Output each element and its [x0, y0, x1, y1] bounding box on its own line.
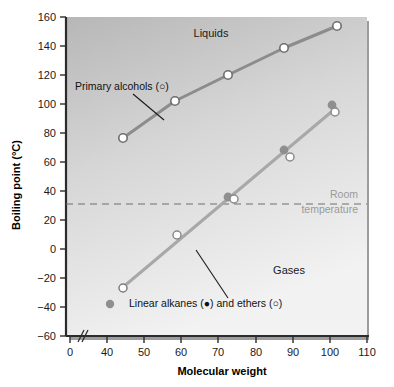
- liquids-region-label: Liquids: [194, 27, 229, 39]
- y-axis-title: Boiling point (°C): [10, 140, 22, 230]
- y-tick-label: −60: [37, 330, 56, 342]
- data-point-alcohol: [333, 22, 341, 30]
- x-axis-title: Molecular weight: [177, 365, 267, 377]
- room-temperature-label-line1: Room: [330, 188, 358, 200]
- room-temperature-label-line2: temperature: [301, 203, 358, 215]
- y-tick-label: 80: [44, 127, 56, 139]
- data-point-ether: [230, 195, 238, 203]
- plot-background: [66, 17, 367, 336]
- y-tick-label: 120: [38, 69, 56, 81]
- y-tick-label: 100: [38, 98, 56, 110]
- x-tick-label: 50: [138, 346, 150, 358]
- alkanes-ethers-callout-label: Linear alkanes (●) and ethers (○): [129, 297, 282, 309]
- x-tick-label: 70: [212, 346, 224, 358]
- x-tick-label: 0: [67, 346, 73, 358]
- data-point-alcohol: [280, 44, 288, 52]
- boiling-point-chart: 160 140 120 100 80 60 40 20 0 −20 −40 −6…: [0, 0, 394, 387]
- y-tick-label: 0: [50, 243, 56, 255]
- data-point-ether: [286, 153, 294, 161]
- gases-region-label: Gases: [273, 264, 305, 276]
- data-point-ether: [331, 108, 339, 116]
- alcohols-callout-label: Primary alcohols (○): [75, 80, 169, 92]
- data-point-alcohol: [224, 71, 232, 79]
- data-point-alcohol: [119, 134, 127, 142]
- data-point-alcohol: [171, 97, 179, 105]
- y-tick-label: −20: [37, 272, 56, 284]
- y-tick-label: 20: [44, 214, 56, 226]
- x-tick-label: 100: [321, 346, 339, 358]
- data-point-ether: [173, 231, 181, 239]
- chart-svg: 160 140 120 100 80 60 40 20 0 −20 −40 −6…: [0, 0, 394, 387]
- plot-area: [66, 17, 369, 340]
- x-tick-label: 80: [250, 346, 262, 358]
- data-point-ether: [119, 284, 127, 292]
- x-tick-label: 110: [358, 346, 376, 358]
- y-tick-label: 60: [44, 156, 56, 168]
- x-tick-label: 40: [101, 346, 113, 358]
- data-point-alkane: [106, 300, 114, 308]
- x-tick-label: 90: [287, 346, 299, 358]
- y-tick-label: −40: [37, 301, 56, 313]
- x-tick-label: 60: [175, 346, 187, 358]
- y-tick-label: 140: [38, 40, 56, 52]
- data-point-alkane: [280, 146, 289, 155]
- y-tick-label: 160: [38, 11, 56, 23]
- y-tick-label: 40: [44, 185, 56, 197]
